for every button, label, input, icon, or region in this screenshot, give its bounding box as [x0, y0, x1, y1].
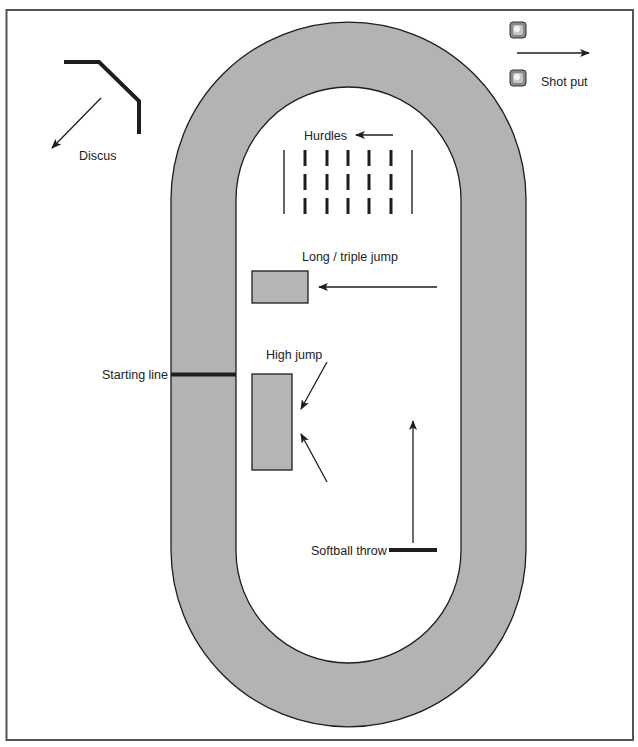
long-jump-pit [252, 271, 308, 303]
track-field-diagram: Starting line Discus Shot put Hurdles [0, 0, 638, 747]
hurdles-label: Hurdles [304, 129, 347, 143]
high-jump-mat [252, 374, 292, 470]
shot-put-circle-icon [510, 70, 526, 86]
shot-put-label: Shot put [541, 75, 588, 89]
shot-put-circle-icon [510, 22, 526, 38]
starting-line-label: Starting line [102, 368, 168, 382]
long-triple-jump-label: Long / triple jump [302, 250, 398, 264]
discus-label: Discus [79, 149, 117, 163]
high-jump-label: High jump [266, 348, 322, 362]
softball-throw-label: Softball throw [311, 544, 388, 558]
